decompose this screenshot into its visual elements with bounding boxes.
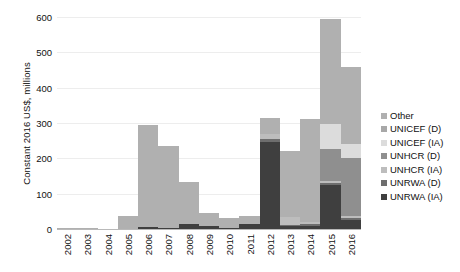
y-axis-tick-label: 400 [36,82,52,93]
x-axis-tick-label: 2004 [102,234,113,255]
bar-segment [341,67,361,144]
legend-item-label: UNHCR (IA) [390,165,442,175]
x-axis-tick-label: 2007 [163,234,174,255]
bar-group-2003 [77,17,97,229]
legend-item-label: UNHCR (D) [390,151,440,161]
bar-group-2007 [158,17,178,229]
x-axis-tick-slot: 2006 [138,232,158,272]
x-axis-tick-slot: 2005 [118,232,138,272]
legend-item-label: Other [390,111,414,121]
bar-group-2016 [341,17,361,229]
bar-segment [320,19,340,125]
bar-segment [239,216,259,224]
x-axis-tick-slot: 2008 [179,232,199,272]
legend-item-label: UNICEF (IA) [390,138,443,148]
x-axis-tick-label: 2015 [325,234,336,255]
legend-item[interactable]: Other [381,110,443,121]
bar-group-2006 [138,17,158,229]
x-axis-tick-slot: 2010 [219,232,239,272]
bar-group-2014 [300,17,320,229]
bar-segment [341,144,361,158]
x-axis-tick-slot: 2007 [158,232,178,272]
x-axis-tick-label: 2016 [345,234,356,255]
x-axis-tick-slot: 2009 [199,232,219,272]
bar-group-2009 [199,17,219,229]
bar-segment [320,185,340,229]
bar-series-group [57,17,361,229]
legend-item[interactable]: UNRWA (D) [381,178,443,189]
x-axis-tick-slot: 2015 [320,232,340,272]
x-axis-tick-slot: 2016 [341,232,361,272]
legend-item[interactable]: UNHCR (IA) [381,164,443,175]
y-axis-tick-label: 0 [47,224,52,235]
x-axis-tick-label: 2012 [264,234,275,255]
legend-item-label: UNRWA (D) [390,178,441,188]
y-axis-tick-label: 600 [36,12,52,23]
x-axis-tick-label: 2002 [62,234,73,255]
stacked-bar-chart: Constant 2016 US$, millions 010020030040… [0,0,460,272]
x-axis-tick-slot: 2013 [280,232,300,272]
y-axis-title: Constant 2016 US$, millions [21,24,32,224]
bar-segment [138,125,158,227]
y-axis-tick-label: 200 [36,153,52,164]
y-axis-tick-label: 500 [36,47,52,58]
bar-group-2013 [280,17,300,229]
x-axis-tick-slot: 2004 [98,232,118,272]
x-axis-tick-label: 2010 [224,234,235,255]
bar-segment [199,213,219,226]
legend-swatch-icon [381,153,387,159]
legend-item[interactable]: UNICEF (IA) [381,137,443,148]
x-axis-tick-label: 2014 [305,234,316,255]
x-axis-tick-label: 2013 [285,234,296,255]
x-axis-ticks: 2002200320042005200620072008200920102011… [57,232,361,272]
bar-group-2004 [98,17,118,229]
legend-swatch-icon [381,194,387,200]
x-axis-tick-slot: 2002 [57,232,77,272]
x-axis-tick-slot: 2014 [300,232,320,272]
legend-swatch-icon [381,113,387,119]
bar-segment [158,146,178,228]
legend-swatch-icon [381,140,387,146]
plot-area: 0100200300400500600 [57,17,361,230]
bar-group-2015 [320,17,340,229]
x-axis-tick-label: 2005 [122,234,133,255]
bar-group-2005 [118,17,138,229]
x-axis-tick-slot: 2012 [260,232,280,272]
bar-group-2010 [219,17,239,229]
bar-segment [118,216,138,229]
bar-segment [300,119,320,222]
bar-group-2012 [260,17,280,229]
legend-item-label: UNICEF (D) [390,124,441,134]
bar-group-2002 [57,17,77,229]
x-axis-tick-label: 2011 [244,234,255,254]
bar-segment [341,158,361,216]
x-axis-tick-slot: 2003 [77,232,97,272]
bar-segment [219,218,239,227]
bar-segment [280,217,300,225]
legend-item[interactable]: UNRWA (IA) [381,192,443,203]
x-axis-tick-label: 2006 [143,234,154,255]
legend-item[interactable]: UNHCR (D) [381,151,443,162]
legend-item-label: UNRWA (IA) [390,192,443,202]
x-axis-tick-label: 2003 [82,234,93,255]
legend-swatch-icon [381,126,387,132]
legend-item[interactable]: UNICEF (D) [381,124,443,135]
bar-segment [260,142,280,229]
x-axis-line [57,229,361,231]
bar-group-2008 [179,17,199,229]
x-axis-tick-label: 2008 [183,234,194,255]
bar-segment [320,124,340,149]
y-axis-tick-label: 100 [36,188,52,199]
chart-legend: OtherUNICEF (D)UNICEF (IA)UNHCR (D)UNHCR… [381,110,443,203]
bar-segment [320,149,340,181]
bar-group-2011 [239,17,259,229]
bar-segment [179,182,199,224]
x-axis-tick-label: 2009 [203,234,214,255]
legend-swatch-icon [381,180,387,186]
bar-segment [260,118,280,134]
legend-swatch-icon [381,167,387,173]
y-axis-tick-label: 300 [36,118,52,129]
bar-segment [280,151,300,217]
x-axis-tick-slot: 2011 [239,232,259,272]
